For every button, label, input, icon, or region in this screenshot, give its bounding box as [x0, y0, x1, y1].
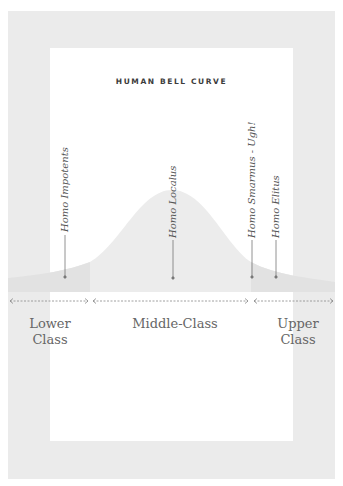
label-homo-localus: Homo Localus — [167, 166, 178, 238]
diagram-title: HUMAN BELL CURVE — [50, 77, 293, 86]
middle-class-label: Middle-Class — [120, 316, 230, 332]
upper-class-label: Upper Class — [268, 316, 328, 348]
label-homo-smarmus: Homo Smarmus - Ugh! — [246, 121, 257, 238]
label-homo-impotents: Homo Impotents — [59, 147, 70, 232]
lower-class-label: Lower Class — [20, 316, 80, 348]
label-homo-elitus: Homo Elitus — [270, 175, 281, 238]
bell-curve-diagram — [0, 0, 343, 486]
